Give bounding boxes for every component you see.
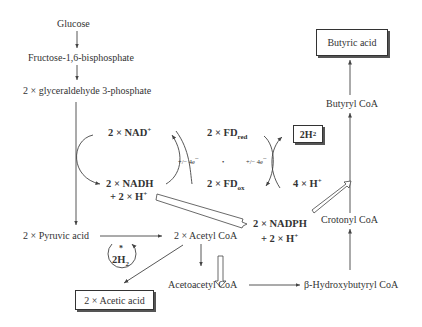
- node-fd-ox: 2 × FDox: [207, 178, 244, 190]
- node-fd-red: 2 × FDred: [207, 127, 247, 139]
- label-electrons-right: +/− 4e−: [246, 156, 267, 168]
- h2-cycle-label: 2H2: [112, 254, 129, 266]
- node-nadh: 2 × NADH: [106, 178, 153, 190]
- node-acetoacetyl: Acetoacetyl CoA: [168, 279, 237, 291]
- label-electrons-left: +/− 4e−: [178, 156, 199, 168]
- node-nad: 2 × NAD+: [108, 127, 151, 139]
- node-pyruvic: 2 × Pyruvic acid: [23, 230, 89, 242]
- node-crotonyl: Crotonyl CoA: [321, 214, 378, 226]
- node-acetyl-coa: 2 × Acetyl CoA: [174, 230, 237, 242]
- node-nadph: 2 × NADPH: [253, 218, 307, 230]
- node-glucose: Glucose: [57, 18, 90, 30]
- acetic-acid-box: 2 × Acetic acid: [75, 290, 154, 310]
- butyric-acid-box: Butyric acid: [316, 29, 388, 56]
- h2-product-box: 2H2: [293, 125, 323, 143]
- node-fructose: Fructose-1,6-bisphosphate: [28, 52, 134, 64]
- arrow-acetyl-acetic: [124, 245, 183, 283]
- dot-center: •: [222, 156, 224, 168]
- node-g3p: 2 × glyceraldehyde 3-phosphate: [23, 85, 151, 97]
- node-butyryl: Butyryl CoA: [326, 98, 378, 110]
- node-four-h: 4 × H+: [293, 178, 322, 190]
- node-nadh-h: + 2 × H+: [110, 191, 147, 203]
- arrow-nad-nadh: [77, 135, 100, 184]
- node-nadph-h: + 2 × H+: [261, 233, 298, 245]
- node-hydroxybutyryl: β-Hydroxybutyryl CoA: [304, 279, 398, 291]
- hollow-arrow-nadh-nadph: [156, 194, 247, 228]
